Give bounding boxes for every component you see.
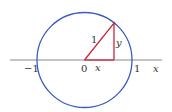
label-x-axis: x: [153, 63, 159, 74]
label-leg-x: x: [95, 62, 101, 73]
label-hypotenuse: 1: [91, 34, 97, 45]
unit-circle-diagram: −1 0 x 1 x 1 y: [0, 0, 172, 112]
label-origin: 0: [81, 63, 87, 74]
label-one: 1: [134, 63, 140, 74]
label-leg-y: y: [115, 37, 122, 48]
label-neg-one: −1: [24, 63, 39, 74]
right-triangle: [85, 23, 115, 60]
